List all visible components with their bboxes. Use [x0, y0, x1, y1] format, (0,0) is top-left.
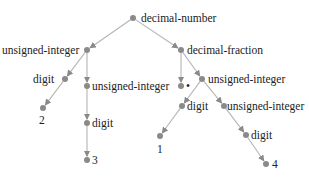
- tree-node-label: unsigned-integer: [227, 100, 304, 112]
- tree-node-dot: [84, 47, 90, 53]
- tree-node-dot: [40, 105, 46, 111]
- tree-node-dot: [243, 132, 249, 138]
- tree-node-dot: [84, 120, 90, 126]
- tree-node-label: 3: [92, 154, 98, 166]
- tree-node-label: decimal-number: [141, 12, 216, 24]
- tree-node-label: digit: [33, 73, 54, 85]
- tree-node-dot: [178, 47, 184, 53]
- tree-node-label: •: [186, 80, 190, 92]
- tree-node-dot: [130, 15, 136, 21]
- tree-node-label: unsigned-integer: [2, 44, 79, 56]
- tree-node-dot: [84, 83, 90, 89]
- tree-node-label: digit: [187, 100, 208, 112]
- tree-node-label: digit: [251, 129, 272, 141]
- parse-tree-diagram: decimal-numberunsigned-integerdecimal-fr…: [0, 0, 309, 178]
- tree-edge: [90, 20, 130, 48]
- tree-node-dot: [157, 133, 163, 139]
- tree-node-label: unsigned-integer: [208, 73, 285, 85]
- tree-edge: [162, 108, 180, 132]
- tree-node-label: digit: [92, 117, 113, 129]
- tree-node-dot: [179, 103, 185, 109]
- tree-node-label: 2: [39, 114, 45, 126]
- tree-node-dot: [178, 83, 184, 89]
- tree-node-dot: [84, 157, 90, 163]
- tree-node-dot: [62, 76, 68, 82]
- tree-node-label: unsigned-integer: [92, 80, 169, 92]
- tree-node-label: decimal-fraction: [187, 44, 263, 56]
- tree-node-dot: [199, 76, 205, 82]
- tree-node-label: 1: [157, 143, 163, 155]
- tree-node-label: 4: [272, 158, 278, 170]
- tree-node-dot: [263, 161, 269, 167]
